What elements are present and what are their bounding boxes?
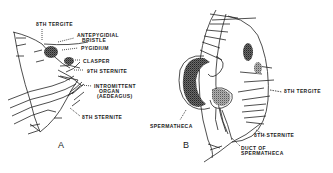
label-a-8th-tergite: 8TH TERGITE xyxy=(36,22,73,28)
label-9th-sternite: 9TH STERNITE xyxy=(87,69,127,75)
spermatheca-duct-bulb xyxy=(212,89,230,106)
spermatheca-shape xyxy=(183,58,210,107)
tergite-stipple xyxy=(243,43,253,61)
label-b-8th-sternite: 8TH STERNITE xyxy=(254,133,294,139)
pygidium-shape xyxy=(44,46,58,58)
flea-genitalia-figure: 8TH TERGITE ANTEPYGIDIAL BRISTLE PYGIDIU… xyxy=(0,0,333,173)
panel-a-drawing xyxy=(8,29,92,134)
label-duct-of-spermatheca-2: SPERMATHECA xyxy=(241,151,284,157)
label-antepygidial-bristle-2: BRISTLE xyxy=(82,38,106,44)
label-b-8th-tergite: 8TH TERGITE xyxy=(284,89,321,95)
clasper-shape xyxy=(64,57,74,65)
panel-label-b: B xyxy=(183,140,189,150)
label-pygidium: PYGIDIUM xyxy=(81,46,109,52)
tergite-stipple-2 xyxy=(254,62,262,74)
label-clasper: CLASPER xyxy=(83,59,110,65)
label-intromittent-organ-3: (AEDEAGUS) xyxy=(97,94,133,100)
label-a-8th-sternite: 8TH STERNITE xyxy=(82,115,122,121)
panel-label-a: A xyxy=(58,140,64,150)
label-spermatheca: SPERMATHECA xyxy=(150,124,193,130)
